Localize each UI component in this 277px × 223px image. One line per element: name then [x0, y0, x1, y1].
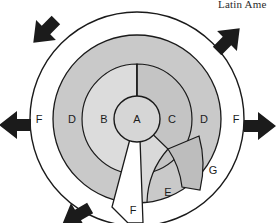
diagram-canvas: Latin Ame: [0, 0, 277, 223]
zone-label-B: B: [100, 113, 107, 125]
arrow-left-icon: [0, 111, 31, 139]
zone-label-A: A: [133, 113, 141, 125]
zone-label-C: C: [168, 113, 176, 125]
zone-label-D-left: D: [68, 113, 76, 125]
zone-label-D-right: D: [200, 113, 208, 125]
zone-label-E: E: [164, 186, 171, 198]
zone-label-F-left: F: [36, 113, 43, 125]
zone-label-F-right: F: [233, 113, 240, 125]
arrow-right-icon: [244, 112, 276, 140]
zone-label-G: G: [209, 164, 218, 176]
zone-label-F-wedge: F: [130, 204, 137, 216]
concentric-ring-diagram: F D B A C D F E G F: [0, 0, 277, 223]
